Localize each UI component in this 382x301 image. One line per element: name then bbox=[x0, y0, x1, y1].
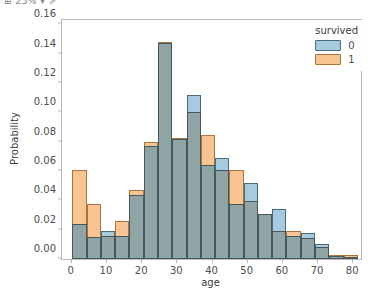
x-tick-label: 70 bbox=[311, 265, 324, 276]
x-tick-label: 60 bbox=[275, 265, 288, 276]
legend-swatch-icon-0 bbox=[315, 40, 341, 51]
y-tick-mark bbox=[58, 52, 62, 53]
y-tick-mark bbox=[58, 199, 62, 200]
histogram-bar-overlap-10 bbox=[215, 170, 229, 259]
legend-item-0[interactable]: 0 bbox=[315, 40, 358, 51]
x-tick-label: 50 bbox=[240, 265, 253, 276]
histogram-bar-overlap-14 bbox=[272, 231, 286, 259]
y-tick-label: 0.06 bbox=[34, 155, 56, 166]
x-tick-mark bbox=[352, 259, 353, 263]
histogram-bar-overlap-11 bbox=[229, 204, 243, 259]
legend-label-1: 1 bbox=[348, 54, 354, 65]
x-tick-mark bbox=[106, 259, 107, 263]
histogram-bar-overlap-16 bbox=[301, 238, 315, 259]
histogram-bar-overlap-18 bbox=[329, 256, 343, 259]
y-axis-label-text: Probability bbox=[9, 112, 20, 165]
y-tick-label: 0.08 bbox=[34, 125, 56, 136]
x-tick-mark bbox=[176, 259, 177, 263]
legend-label-0: 0 bbox=[348, 40, 354, 51]
legend: survived 0 1 bbox=[307, 20, 366, 71]
y-tick-mark bbox=[58, 170, 62, 171]
y-tick-mark bbox=[58, 82, 62, 83]
legend-title: survived bbox=[315, 25, 358, 36]
y-tick-mark bbox=[58, 111, 62, 112]
y-tick-label: 0.16 bbox=[34, 8, 56, 19]
histogram-bar-overlap-19 bbox=[344, 257, 358, 259]
histogram-bar-overlap-7 bbox=[172, 139, 186, 259]
y-tick-mark bbox=[58, 228, 62, 229]
histogram-bar-overlap-9 bbox=[201, 165, 215, 259]
x-tick-label: 80 bbox=[346, 265, 359, 276]
histogram-bar-overlap-6 bbox=[158, 43, 172, 259]
y-axis-label: Probability bbox=[8, 19, 20, 258]
legend-swatch-icon-1 bbox=[315, 54, 341, 65]
histogram-bar-overlap-2 bbox=[101, 236, 115, 259]
histogram-bar-overlap-0 bbox=[72, 224, 86, 259]
histogram-bar-overlap-8 bbox=[187, 112, 201, 259]
y-tick-label: 0.04 bbox=[34, 184, 56, 195]
histogram-bar-overlap-13 bbox=[258, 214, 272, 259]
histogram-bar-overlap-5 bbox=[144, 146, 158, 259]
x-tick-mark bbox=[317, 259, 318, 263]
y-tick-label: 0.02 bbox=[34, 213, 56, 224]
x-tick-label: 30 bbox=[170, 265, 183, 276]
x-tick-mark bbox=[247, 259, 248, 263]
x-axis-label: age bbox=[61, 277, 360, 288]
x-tick-mark bbox=[71, 259, 72, 263]
x-tick-mark bbox=[212, 259, 213, 263]
x-tick-label: 10 bbox=[100, 265, 113, 276]
y-tick-label: 0.10 bbox=[34, 96, 56, 107]
legend-item-1[interactable]: 1 bbox=[315, 54, 358, 65]
y-tick-mark bbox=[58, 23, 62, 24]
y-tick-label: 0.14 bbox=[34, 37, 56, 48]
x-tick-label: 40 bbox=[205, 265, 218, 276]
y-tick-mark bbox=[58, 140, 62, 141]
y-tick-mark bbox=[58, 258, 62, 259]
histogram-figure: ⊞ 25% ▾ ⇗ Probability 0.000.020.040.060.… bbox=[0, 0, 382, 301]
histogram-bar-overlap-15 bbox=[286, 236, 300, 259]
y-tick-label: 0.00 bbox=[34, 243, 56, 254]
histogram-bar-overlap-17 bbox=[315, 247, 329, 259]
x-tick-label: 0 bbox=[68, 265, 74, 276]
x-tick-label: 20 bbox=[135, 265, 148, 276]
histogram-bar-overlap-12 bbox=[244, 201, 258, 259]
y-tick-label: 0.12 bbox=[34, 67, 56, 78]
histogram-bar-overlap-1 bbox=[87, 237, 101, 259]
histogram-bar-overlap-4 bbox=[129, 195, 143, 259]
x-tick-mark bbox=[282, 259, 283, 263]
x-tick-mark bbox=[141, 259, 142, 263]
cropped-toolbar-fragment: ⊞ 25% ▾ ⇗ bbox=[4, 0, 94, 6]
histogram-bar-overlap-3 bbox=[115, 236, 129, 259]
